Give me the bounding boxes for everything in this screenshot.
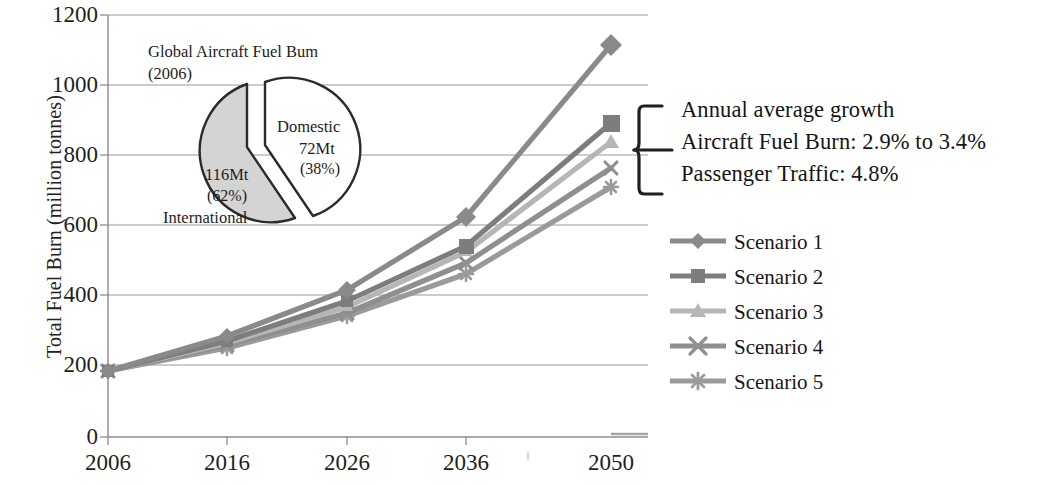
legend-label-scenario-2: Scenario 2 bbox=[734, 265, 823, 290]
legend-marker-triangle-icon bbox=[668, 298, 728, 324]
pie-value-domestic: 72Mt bbox=[299, 139, 335, 159]
legend-marker-asterisk-icon bbox=[668, 368, 728, 394]
legend-marker-diamond-icon bbox=[668, 228, 728, 254]
legend-label-scenario-3: Scenario 3 bbox=[734, 300, 823, 325]
legend-label-scenario-1: Scenario 1 bbox=[734, 230, 823, 255]
pie-label-domestic: Domestic bbox=[277, 117, 340, 137]
pie-percent-international: (62%) bbox=[207, 187, 247, 205]
x-axis bbox=[108, 434, 648, 460]
annotation-brace bbox=[634, 106, 672, 194]
series-scenario-1 bbox=[100, 34, 622, 379]
annotation-line-fuel-burn: Aircraft Fuel Burn: 2.9% to 3.4% bbox=[681, 129, 986, 155]
pie-title-line1: Global Aircraft Fuel Bum bbox=[148, 42, 318, 62]
pie-percent-domestic: (38%) bbox=[300, 160, 340, 178]
legend-label-scenario-4: Scenario 4 bbox=[734, 335, 823, 360]
legend-marker-x-icon bbox=[668, 333, 728, 359]
annotation-line-passenger: Passenger Traffic: 4.8% bbox=[681, 161, 899, 187]
pie-title-line2: (2006) bbox=[148, 64, 192, 84]
legend-label-scenario-5: Scenario 5 bbox=[734, 370, 823, 395]
pie-value-international: 116Mt bbox=[205, 165, 248, 185]
annotation-line-growth-heading: Annual average growth bbox=[681, 97, 894, 123]
series-scenario-3 bbox=[102, 134, 619, 375]
legend-marker-square-icon bbox=[668, 263, 728, 289]
pie-label-international: International bbox=[163, 208, 247, 228]
chart-canvas: Total Fuel Burn (million tonnes) 1200 10… bbox=[0, 0, 1057, 485]
